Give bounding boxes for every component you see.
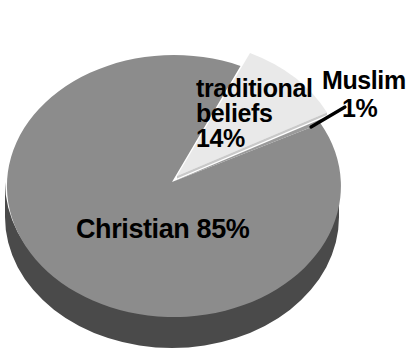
slice-label-traditional-percent: 14% xyxy=(196,126,312,151)
pie-chart: Christian 85% traditional beliefs 14% Mu… xyxy=(0,0,410,362)
slice-label-christian: Christian 85% xyxy=(76,216,249,243)
slice-label-traditional-line1: traditional xyxy=(196,76,312,101)
slice-label-muslim: Muslim xyxy=(322,68,406,93)
slice-label-muslim-percent: 1% xyxy=(342,96,377,121)
slice-label-traditional-line2: beliefs xyxy=(196,101,312,126)
pie-chart-graphic xyxy=(0,0,410,362)
slice-label-traditional-beliefs: traditional beliefs 14% xyxy=(196,76,312,151)
